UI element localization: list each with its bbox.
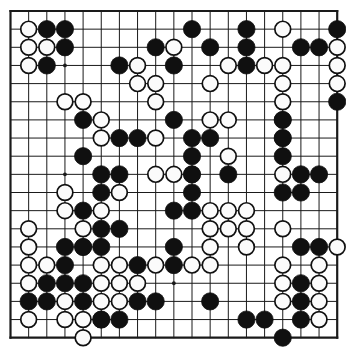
black-stone[interactable]: [93, 238, 110, 255]
white-stone[interactable]: [275, 221, 291, 237]
black-stone[interactable]: [93, 166, 110, 183]
white-stone[interactable]: [311, 257, 327, 273]
white-stone[interactable]: [130, 275, 146, 291]
black-stone[interactable]: [202, 293, 219, 310]
black-stone[interactable]: [238, 39, 255, 56]
black-stone[interactable]: [329, 93, 346, 110]
black-stone[interactable]: [274, 184, 291, 201]
white-stone[interactable]: [275, 257, 291, 273]
white-stone[interactable]: [220, 58, 236, 74]
black-stone[interactable]: [93, 220, 110, 237]
black-stone[interactable]: [202, 39, 219, 56]
white-stone[interactable]: [112, 185, 128, 201]
white-stone[interactable]: [275, 21, 291, 37]
white-stone[interactable]: [93, 275, 109, 291]
black-stone[interactable]: [75, 202, 92, 219]
black-stone[interactable]: [56, 21, 73, 38]
white-stone[interactable]: [93, 130, 109, 146]
white-stone[interactable]: [112, 257, 128, 273]
white-stone[interactable]: [257, 58, 273, 74]
white-stone[interactable]: [275, 294, 291, 310]
black-stone[interactable]: [310, 238, 327, 255]
white-stone[interactable]: [202, 76, 218, 92]
white-stone[interactable]: [21, 312, 37, 328]
black-stone[interactable]: [111, 57, 128, 74]
black-stone[interactable]: [129, 257, 146, 274]
white-stone[interactable]: [75, 221, 91, 237]
black-stone[interactable]: [292, 275, 309, 292]
black-stone[interactable]: [147, 39, 164, 56]
black-stone[interactable]: [183, 21, 200, 38]
white-stone[interactable]: [75, 330, 91, 346]
white-stone[interactable]: [130, 58, 146, 74]
white-stone[interactable]: [311, 312, 327, 328]
black-stone[interactable]: [183, 166, 200, 183]
black-stone[interactable]: [274, 111, 291, 128]
black-stone[interactable]: [256, 311, 273, 328]
white-stone[interactable]: [93, 203, 109, 219]
black-stone[interactable]: [183, 202, 200, 219]
black-stone[interactable]: [38, 57, 55, 74]
black-stone[interactable]: [129, 129, 146, 146]
white-stone[interactable]: [275, 275, 291, 291]
white-stone[interactable]: [148, 94, 164, 110]
white-stone[interactable]: [57, 185, 73, 201]
white-stone[interactable]: [275, 76, 291, 92]
white-stone[interactable]: [93, 294, 109, 310]
white-stone[interactable]: [75, 312, 91, 328]
black-stone[interactable]: [129, 293, 146, 310]
black-stone[interactable]: [56, 39, 73, 56]
black-stone[interactable]: [165, 257, 182, 274]
white-stone[interactable]: [202, 203, 218, 219]
black-stone[interactable]: [111, 129, 128, 146]
white-stone[interactable]: [239, 221, 255, 237]
black-stone[interactable]: [238, 311, 255, 328]
black-stone[interactable]: [111, 311, 128, 328]
white-stone[interactable]: [112, 294, 128, 310]
white-stone[interactable]: [21, 221, 37, 237]
white-stone[interactable]: [220, 112, 236, 128]
black-stone[interactable]: [75, 238, 92, 255]
white-stone[interactable]: [21, 239, 37, 255]
white-stone[interactable]: [93, 257, 109, 273]
white-stone[interactable]: [202, 239, 218, 255]
white-stone[interactable]: [21, 275, 37, 291]
black-stone[interactable]: [56, 257, 73, 274]
white-stone[interactable]: [57, 94, 73, 110]
black-stone[interactable]: [183, 129, 200, 146]
black-stone[interactable]: [93, 184, 110, 201]
black-stone[interactable]: [274, 329, 291, 346]
white-stone[interactable]: [184, 257, 200, 273]
white-stone[interactable]: [166, 166, 182, 182]
white-stone[interactable]: [202, 257, 218, 273]
black-stone[interactable]: [183, 184, 200, 201]
black-stone[interactable]: [329, 21, 346, 38]
black-stone[interactable]: [111, 220, 128, 237]
black-stone[interactable]: [165, 238, 182, 255]
white-stone[interactable]: [239, 239, 255, 255]
white-stone[interactable]: [329, 58, 345, 74]
white-stone[interactable]: [220, 203, 236, 219]
white-stone[interactable]: [21, 257, 37, 273]
white-stone[interactable]: [166, 39, 182, 55]
white-stone[interactable]: [75, 94, 91, 110]
white-stone[interactable]: [329, 239, 345, 255]
white-stone[interactable]: [21, 39, 37, 55]
white-stone[interactable]: [57, 294, 73, 310]
white-stone[interactable]: [329, 39, 345, 55]
white-stone[interactable]: [93, 112, 109, 128]
black-stone[interactable]: [147, 293, 164, 310]
black-stone[interactable]: [292, 39, 309, 56]
white-stone[interactable]: [202, 112, 218, 128]
black-stone[interactable]: [165, 202, 182, 219]
black-stone[interactable]: [202, 129, 219, 146]
white-stone[interactable]: [275, 58, 291, 74]
black-stone[interactable]: [274, 148, 291, 165]
white-stone[interactable]: [21, 58, 37, 74]
white-stone[interactable]: [148, 130, 164, 146]
black-stone[interactable]: [238, 21, 255, 38]
black-stone[interactable]: [292, 238, 309, 255]
white-stone[interactable]: [148, 257, 164, 273]
white-stone[interactable]: [311, 275, 327, 291]
black-stone[interactable]: [75, 293, 92, 310]
